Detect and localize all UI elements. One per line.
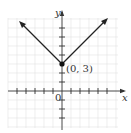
graph: (0, 3) x y 0: [0, 0, 131, 133]
y-axis-label: y: [54, 7, 61, 18]
function-graph: [22, 21, 105, 64]
x-axis-label: x: [122, 92, 128, 103]
origin-label: 0: [55, 92, 61, 103]
vertex-point: [59, 61, 64, 66]
vertex-label: (0, 3): [66, 63, 93, 74]
right-branch: [62, 21, 105, 64]
left-branch: [22, 24, 62, 64]
